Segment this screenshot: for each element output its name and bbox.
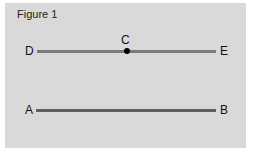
label-a: A [25,104,33,116]
label-c: C [121,34,130,46]
label-d: D [25,45,34,57]
figure-title: Figure 1 [17,8,57,20]
segment-ab [36,109,216,112]
label-e: E [220,45,228,57]
figure-panel [5,3,246,148]
point-c [124,48,130,54]
label-b: B [220,104,228,116]
